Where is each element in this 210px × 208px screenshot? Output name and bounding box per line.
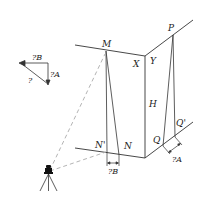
arrowhead-left-icon [19,61,25,67]
bottom-left-edge [75,148,145,158]
label-P: P [167,23,175,33]
label-Q: Q [153,135,161,145]
label-Y: Y [150,56,157,66]
label-dA-legend: ?A [50,70,60,79]
label-X: X [132,59,140,69]
legend-triangle [19,61,50,86]
label-H: H [148,99,157,109]
arrowhead-down-icon [46,80,50,85]
label-N-prime: N' [94,140,105,150]
label-dB-bottom: ?B [108,167,118,176]
building-corner-diagram: M X Y P H N' N Q Q' ?B ?A ?B ?A ? [0,0,210,208]
label-M: M [101,39,112,49]
label-Q-prime: Q' [176,118,186,128]
dA-dimension [163,137,182,154]
label-N: N [123,141,133,151]
m-projection [106,51,119,155]
label-dA-bottom: ?A [172,155,182,164]
label-d-legend: ? [28,76,33,85]
p-projection [163,35,175,146]
label-dB-legend: ?B [32,53,42,62]
theodolite-tripod-icon [40,165,57,191]
